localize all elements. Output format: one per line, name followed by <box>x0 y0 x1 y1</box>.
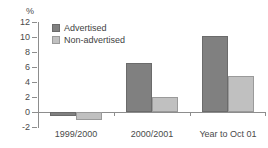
bar-non-advertised <box>152 97 178 112</box>
bar-advertised <box>202 36 228 113</box>
legend-swatch-advertised <box>52 24 60 32</box>
legend-item-non-advertised: Non-advertised <box>52 34 125 45</box>
legend-swatch-non-advertised <box>52 36 60 44</box>
y-axis-tick-label: 4 <box>25 78 30 87</box>
y-axis-tick-label: 0 <box>25 108 30 117</box>
bar-non-advertised <box>228 76 254 112</box>
y-axis-tick <box>32 112 37 113</box>
chart-legend: Advertised Non-advertised <box>52 22 125 46</box>
legend-item-advertised: Advertised <box>52 22 125 33</box>
x-axis-category-label: 2000/2001 <box>131 129 174 140</box>
x-axis-end-tick <box>265 112 266 116</box>
legend-label-advertised: Advertised <box>64 23 107 33</box>
bar-advertised <box>126 63 152 112</box>
bar-non-advertised <box>76 112 102 120</box>
y-axis-tick-label: 2 <box>25 93 30 102</box>
y-axis-tick <box>32 127 37 128</box>
y-axis-tick-label: -2 <box>22 123 30 132</box>
x-axis-separator-tick <box>190 112 191 116</box>
legend-label-non-advertised: Non-advertised <box>64 35 125 45</box>
x-axis-category-label: Year to Oct 01 <box>199 129 256 140</box>
y-axis-tick <box>32 22 37 23</box>
x-axis-category-label: 1999/2000 <box>55 129 98 140</box>
y-axis-tick-label: 8 <box>25 48 30 57</box>
bar-chart: % -2024681012 Advertised Non-advertised … <box>0 0 268 148</box>
y-axis-tick <box>32 67 37 68</box>
y-axis-tick <box>32 82 37 83</box>
bar-advertised <box>50 112 76 116</box>
y-axis-tick-label: 12 <box>20 18 30 27</box>
y-axis-unit-label: % <box>26 6 34 16</box>
y-axis-tick <box>32 97 37 98</box>
y-axis-tick-label: 6 <box>25 63 30 72</box>
x-axis-separator-tick <box>114 112 115 116</box>
y-axis-tick <box>32 37 37 38</box>
y-axis-tick-label: 10 <box>20 33 30 42</box>
y-axis-tick <box>32 52 37 53</box>
